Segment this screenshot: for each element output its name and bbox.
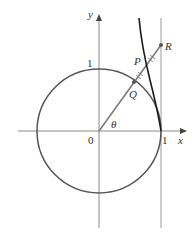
y-axis-arrow-icon — [96, 14, 102, 21]
point-R — [159, 43, 163, 47]
theta-label: θ — [111, 118, 117, 130]
y-axis-label: y — [87, 8, 93, 20]
point-R-label: R — [164, 40, 172, 52]
origin-label: 0 — [88, 134, 94, 146]
x-one-label: 1 — [162, 134, 168, 146]
point-Q — [132, 80, 136, 84]
y-axis — [96, 14, 102, 228]
point-Q-label: Q — [129, 88, 137, 100]
point-P-label: P — [133, 55, 141, 67]
diagram-canvas: y x 0 1 1 θ P Q R — [0, 0, 196, 242]
y-one-label: 1 — [87, 57, 93, 69]
polar-curve — [139, 18, 161, 131]
x-axis-label: x — [177, 134, 183, 146]
